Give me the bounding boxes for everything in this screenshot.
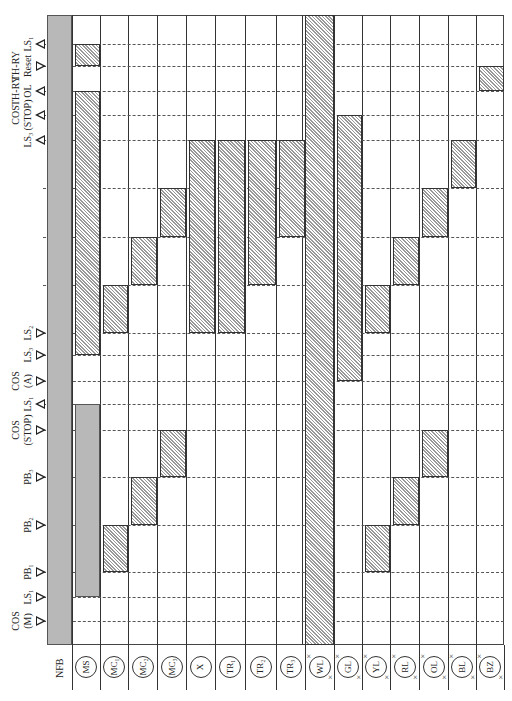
column-tick [157,645,158,690]
event-label-text: (STOP) [22,415,33,446]
event-triangle-icon [36,376,46,386]
column-label-text: OL [429,661,439,673]
column-divider [362,15,363,645]
event-line [43,44,504,45]
column-divider [419,15,420,645]
event-triangle-icon [36,61,46,71]
lamp-icon-gl: GL [337,656,359,678]
event-triangle-icon [36,520,46,530]
event-label-text: PB₂ [22,517,33,533]
event-line [43,381,504,382]
column-label-text: BL [457,661,467,673]
lamp-icon-bl: BL [451,656,473,678]
bar-ms [75,44,100,66]
column-tick [504,645,505,690]
event-label-text: (M) [22,613,33,629]
event-group-label: COS [10,359,21,403]
event-line [43,91,504,92]
column-tick [215,645,216,690]
column-divider [128,15,129,645]
column-tick [276,645,277,690]
column-tick [100,645,101,690]
event-line [43,572,504,573]
event-label: (M) [22,599,33,643]
bar-gl [337,115,362,381]
relay-coil-icon-mc1: MC₁ [103,656,125,678]
event-group-label: COS [10,93,21,137]
bar-rl [393,477,419,525]
column-tick [72,645,73,690]
column-label-text: MC₃ [167,658,177,675]
bar-ol [422,188,448,237]
event-triangle-icon [36,592,46,602]
bar-yl [365,285,390,333]
event-line [43,66,504,67]
bar-tr1 [218,140,245,333]
bar-tr3 [279,140,305,237]
bar-wl [305,15,334,645]
event-line [43,621,504,622]
lamp-icon-rl: RL [394,656,416,678]
column-label-text: MS [81,660,91,673]
event-triangle-icon [35,86,45,96]
relay-coil-icon-x: X [190,656,212,678]
column-label-text: TR₃ [285,660,295,675]
lamp-icon-ol: OL [423,656,445,678]
event-triangle-icon [36,472,46,482]
bar-mc2 [131,237,157,285]
event-group-label: COS [10,599,21,643]
bar-mc1 [103,285,128,333]
lamp-icon-bz: BZ [479,656,501,678]
column-tick [186,645,187,690]
event-label: LS₃ [22,118,33,162]
column-divider [215,15,216,645]
bar-mc3 [160,188,186,237]
column-divider [390,15,391,645]
wl-double-divider [302,15,303,645]
bar-mc3 [160,430,186,477]
column-label-text: YL [371,661,381,673]
event-line [43,477,504,478]
bar-mc2 [131,477,157,525]
event-line [43,355,504,356]
column-label-text: TR₂ [255,660,265,675]
bar-ms [75,91,100,355]
column-tick [245,645,246,690]
event-line [43,597,504,598]
column-label-text: X [196,664,206,671]
event-triangle-icon [35,135,45,145]
column-tick [128,645,129,690]
event-triangle-icon [36,350,46,360]
event-triangle-icon [36,328,46,338]
timing-diagram: LS₁ResetTH-RYOLTH-RY(STOP)COSLS₃LS₂LS₃(A… [0,0,512,701]
relay-coil-icon-mc3: MC₃ [161,656,183,678]
relay-coil-icon-ms: MS [75,656,97,678]
relay-coil-icon-tr1: TR₁ [219,656,241,678]
bar-x [189,140,215,333]
column-divider [72,15,73,645]
bar-bz [479,66,504,91]
column-label-text: BZ [485,661,495,673]
column-label-nfb: NFB [54,659,65,678]
column-divider [157,15,158,645]
event-label-text: PB₃ [22,469,33,485]
column-divider [245,15,246,645]
event-triangle-icon [36,616,46,626]
event-group-label: COS [10,408,21,452]
relay-coil-icon-mc2: MC₂ [132,656,154,678]
column-label-text: RL [399,661,409,673]
lamp-icon-yl: YL [365,656,387,678]
column-label-text: WL [315,660,325,674]
event-triangle-icon [35,399,45,409]
event-triangle-icon [35,39,45,49]
column-divider [476,15,477,645]
event-triangle-icon [36,425,46,435]
bar-yl [365,525,390,572]
bar-ms [75,404,100,597]
column-divider [186,15,187,645]
column-divider [100,15,101,645]
column-label-text: MC₂ [138,658,148,675]
event-line [43,404,504,405]
bar-ol [422,430,448,477]
bar-bl [451,140,476,188]
